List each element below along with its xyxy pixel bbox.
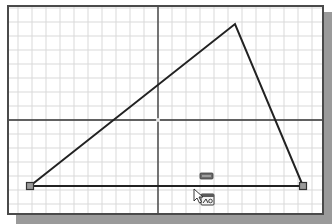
sketch-viewport[interactable]	[7, 5, 324, 215]
horizontal-constraint-icon[interactable]	[200, 173, 213, 179]
endpoint-marker[interactable]	[300, 183, 307, 190]
origin-point[interactable]	[156, 118, 160, 122]
dimension-constraint-icon[interactable]	[201, 194, 214, 205]
coordinate-axes	[9, 7, 324, 215]
endpoint-marker[interactable]	[27, 183, 34, 190]
sketch-canvas[interactable]	[9, 7, 324, 215]
grid-lines	[9, 7, 324, 215]
